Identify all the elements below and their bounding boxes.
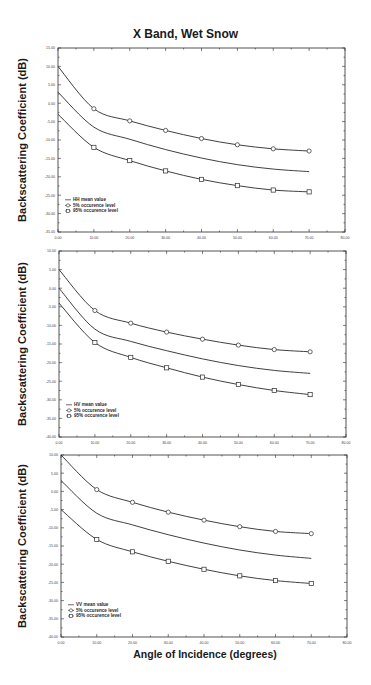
x-tick-label: 70.00: [306, 441, 315, 445]
x-tick-label: 80.00: [342, 441, 351, 445]
x-tick-label: 20.00: [126, 441, 135, 445]
square-marker: [95, 537, 99, 541]
x-tick-label: 50.00: [233, 236, 242, 240]
y-tick-label: 5.00: [51, 472, 58, 476]
square-marker: [236, 382, 240, 386]
legend-square-icon: [66, 209, 69, 212]
x-axis-label: Angle of Incidence (degrees): [60, 648, 350, 660]
y-tick-label: -5.00: [48, 305, 56, 309]
x-tick-label: 0.00: [55, 236, 62, 240]
circle-marker: [308, 350, 312, 354]
y-tick-label: 5.00: [48, 83, 55, 87]
circle-marker: [273, 529, 277, 533]
y-tick-label: -35.00: [45, 230, 55, 234]
legend: HV mean value5% occurence level95% occur…: [66, 402, 119, 418]
legend-label: 5% occurence level: [73, 203, 115, 208]
x-tick-label: 70.00: [307, 641, 316, 645]
square-marker: [202, 567, 206, 571]
x-tick-label: 20.00: [128, 641, 137, 645]
y-tick-label: -15.00: [48, 544, 58, 548]
circle-marker: [128, 119, 132, 123]
legend-square-icon: [67, 414, 70, 417]
y-tick-label: -20.00: [48, 563, 58, 567]
x-tick-label: 60.00: [271, 641, 280, 645]
legend: VV mean value5% occurence level95% occur…: [68, 602, 121, 618]
x-tick-label: 60.00: [270, 441, 279, 445]
circle-marker: [129, 321, 133, 325]
y-tick-label: -25.00: [46, 380, 56, 384]
y-tick-label: -5.00: [50, 508, 58, 512]
square-marker: [199, 177, 203, 181]
legend-circle-icon: [69, 609, 72, 612]
legend-label: 95% occurence level: [73, 208, 118, 213]
y-tick-label: 5.00: [49, 268, 56, 272]
x-tick-label: 30.00: [162, 441, 171, 445]
y-tick-label: -10.00: [45, 138, 55, 142]
circle-marker: [164, 128, 168, 132]
y-tick-label: -20.00: [45, 175, 55, 179]
chart-hv: 0.0010.0020.0030.0040.0050.0060.0070.008…: [46, 249, 351, 445]
square-marker: [130, 550, 134, 554]
square-marker: [128, 159, 132, 163]
square-marker: [309, 581, 313, 585]
x-tick-label: 0.00: [58, 641, 65, 645]
y-tick-label: -25.00: [45, 194, 55, 198]
circle-marker: [92, 107, 96, 111]
y-tick-label: -30.00: [46, 398, 56, 402]
x-tick-label: 10.00: [90, 441, 99, 445]
circle-marker: [95, 487, 99, 491]
circle-marker: [236, 343, 240, 347]
y-tick-label: 0.00: [49, 287, 56, 291]
y-tick-label: -10.00: [48, 526, 58, 530]
x-tick-label: 40.00: [198, 441, 207, 445]
series-line-p95: [61, 510, 311, 584]
circle-marker: [200, 337, 204, 341]
y-tick-label: -5.00: [47, 120, 55, 124]
y-tick-label: -10.00: [46, 324, 56, 328]
legend-square-icon: [69, 614, 72, 617]
circle-marker: [307, 149, 311, 153]
square-marker: [165, 366, 169, 370]
y-tick-label: -35.00: [46, 417, 56, 421]
square-marker: [307, 190, 311, 194]
legend-label: 5% occurence level: [76, 608, 118, 613]
y-tick-label: -35.00: [48, 617, 58, 621]
square-marker: [92, 145, 96, 149]
x-tick-label: 10.00: [92, 641, 101, 645]
x-tick-label: 40.00: [197, 236, 206, 240]
circle-marker: [272, 347, 276, 351]
square-marker: [166, 559, 170, 563]
y-tick-label: 0.00: [51, 490, 58, 494]
legend-label: HH mean value: [73, 197, 106, 202]
legend-label: 95% occurence level: [74, 413, 119, 418]
circle-marker: [238, 525, 242, 529]
y-tick-label: -20.00: [46, 361, 56, 365]
x-tick-label: 10.00: [89, 236, 98, 240]
plot-area: 0.0010.0020.0030.0040.0050.0060.0070.008…: [0, 0, 371, 685]
circle-marker: [199, 136, 203, 140]
square-marker: [271, 188, 275, 192]
square-marker: [235, 184, 239, 188]
square-marker: [238, 574, 242, 578]
y-tick-label: 15.00: [46, 46, 55, 50]
circle-marker: [271, 147, 275, 151]
x-tick-label: 30.00: [164, 641, 173, 645]
y-tick-label: -30.00: [48, 599, 58, 603]
circle-marker: [202, 518, 206, 522]
square-marker: [93, 340, 97, 344]
x-tick-label: 30.00: [161, 236, 170, 240]
legend-circle-icon: [66, 204, 69, 207]
legend-circle-icon: [67, 409, 70, 412]
circle-marker: [165, 330, 169, 334]
series-line-p95: [58, 114, 309, 192]
x-tick-label: 80.00: [343, 641, 352, 645]
y-tick-label: 10.00: [47, 249, 56, 253]
square-marker: [164, 169, 168, 173]
legend-label: 5% occurence level: [74, 408, 116, 413]
x-tick-label: 50.00: [235, 641, 244, 645]
y-tick-label: -30.00: [45, 212, 55, 216]
circle-marker: [235, 143, 239, 147]
figure: X Band, Wet Snow Backscattering Coeffici…: [0, 0, 371, 685]
square-marker: [200, 375, 204, 379]
legend-label: 95% occurence level: [76, 613, 121, 618]
